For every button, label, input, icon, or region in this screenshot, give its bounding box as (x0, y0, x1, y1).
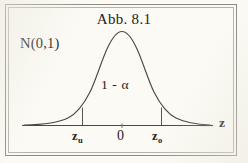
tick-label-lower-bound: zu (72, 130, 82, 143)
tick-upper-base: z (152, 129, 158, 143)
tick-upper-subscript: o (158, 135, 162, 145)
confidence-area-label: 1 - α (101, 78, 129, 92)
tick-lower-base: z (72, 129, 78, 143)
figure-container: Abb. 8.1 N(0,1) 1 - α zu 0 zo z (0, 0, 248, 163)
tick-label-origin: 0 (117, 129, 124, 143)
figure-title: Abb. 8.1 (0, 12, 248, 27)
tick-label-upper-bound: zo (152, 130, 162, 143)
tick-lower-subscript: u (78, 135, 83, 145)
z-axis-label: z (219, 116, 225, 130)
distribution-label: N(0,1) (20, 36, 59, 51)
